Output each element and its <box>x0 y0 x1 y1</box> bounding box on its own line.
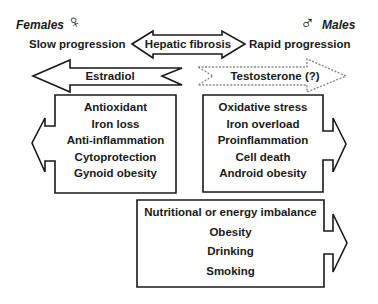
risk-factor-item: Drinking <box>207 246 254 258</box>
female-effects-list: Antioxidant Iron loss Anti-inflammation … <box>55 102 176 180</box>
male-effect-item: Iron overload <box>227 119 300 131</box>
risk-factors-list: Nutritional or energy imbalance Obesity … <box>137 207 324 277</box>
male-effect-item: Android obesity <box>219 168 307 180</box>
female-effect-item: Gynoid obesity <box>74 168 157 180</box>
male-effects-list: Oxidative stress Iron overload Proinflam… <box>203 102 323 180</box>
risk-factor-item: Obesity <box>209 227 251 239</box>
hepatic-fibrosis-label: Hepatic fibrosis <box>145 39 231 51</box>
males-label: Males <box>322 19 355 31</box>
female-effect-item: Antioxidant <box>84 102 147 114</box>
rapid-progression-label: Rapid progression <box>249 39 351 51</box>
female-effect-item: Iron loss <box>92 119 140 131</box>
male-effect-item: Proinflammation <box>218 135 309 147</box>
male-effect-item: Oxidative stress <box>219 102 308 114</box>
female-effect-item: Cytoprotection <box>75 152 157 164</box>
estradiol-label: Estradiol <box>85 71 134 83</box>
female-effect-item: Anti-inflammation <box>67 135 165 147</box>
risk-factor-item: Smoking <box>206 266 255 278</box>
male-effect-item: Cell death <box>236 152 291 164</box>
females-label: Females <box>16 19 64 31</box>
risk-factor-item: Nutritional or energy imbalance <box>144 207 317 219</box>
testosterone-label: Testosterone (?) <box>230 71 319 83</box>
male-symbol-icon: ♂ <box>300 12 315 32</box>
slow-progression-label: Slow progression <box>29 39 126 51</box>
